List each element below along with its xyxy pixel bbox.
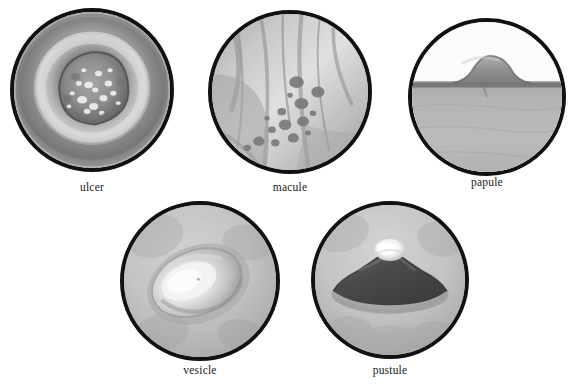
specimen-pustule: pustule: [311, 201, 469, 380]
pustule-artwork: [311, 201, 469, 359]
specimen-papule: papule: [408, 18, 566, 192]
vesicle-artwork: [120, 201, 280, 361]
papule-illustration-disc: [408, 18, 566, 176]
specimen-ulcer: ulcer: [10, 8, 174, 197]
ulcer-illustration-disc: [10, 8, 174, 172]
pustule-illustration-disc: [311, 201, 469, 359]
caption-ulcer: ulcer: [10, 181, 174, 193]
specimen-vesicle: vesicle: [120, 201, 280, 380]
skin-lesion-illustration-plate: ulcer: [0, 0, 588, 391]
specimen-macule: macule: [208, 10, 372, 197]
vesicle-illustration-disc: [120, 201, 280, 361]
papule-artwork: [408, 18, 566, 176]
caption-vesicle: vesicle: [120, 364, 280, 376]
caption-pustule: pustule: [311, 364, 469, 376]
macule-artwork: [208, 10, 372, 174]
ulcer-artwork: [10, 8, 174, 172]
caption-papule: papule: [408, 176, 566, 188]
caption-macule: macule: [208, 181, 372, 193]
macule-illustration-disc: [208, 10, 372, 174]
